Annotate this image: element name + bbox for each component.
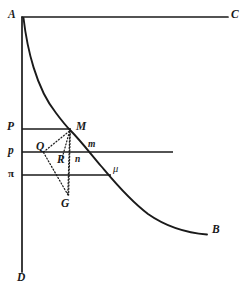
label-n: n — [75, 155, 80, 165]
label-R: R — [57, 154, 65, 166]
label-pi-lower: π — [8, 168, 14, 179]
figure-canvas: A C B D P p π M Q R G m n μ — [0, 0, 251, 295]
label-D: D — [17, 272, 25, 284]
label-m: m — [88, 140, 95, 150]
dotted-line-QM — [44, 131, 70, 152]
label-M: M — [76, 121, 86, 133]
label-A: A — [8, 9, 16, 21]
label-G: G — [61, 198, 69, 210]
label-C: C — [231, 9, 239, 21]
label-Q: Q — [36, 141, 44, 153]
label-p-middle: p — [8, 145, 14, 157]
label-P-upper: P — [7, 121, 14, 133]
demand-curve-AB-path — [24, 18, 208, 235]
dotted-line-M-vertical-through-n — [69, 131, 71, 196]
label-B: B — [212, 224, 220, 236]
label-mu: μ — [113, 164, 118, 175]
